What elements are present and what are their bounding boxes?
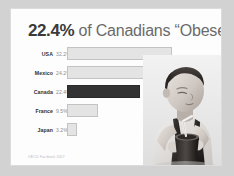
bar-japan — [67, 123, 77, 136]
slide-background: 22.4% of Canadians “Obese” USA32.2%Mexic… — [0, 0, 234, 176]
slide-card: 22.4% of Canadians “Obese” USA32.2%Mexic… — [10, 8, 222, 166]
bar-label-mexico: Mexico — [17, 70, 53, 76]
page-title: 22.4% of Canadians “Obese” — [28, 21, 213, 43]
boy-drinking-photo — [143, 55, 221, 166]
bar-label-france: France — [17, 108, 53, 114]
bar-canada — [67, 85, 140, 98]
bar-mexico — [67, 66, 146, 79]
title-percent: 22.4% — [28, 21, 74, 40]
bar-label-usa: USA — [17, 51, 53, 57]
bar-france — [67, 104, 98, 117]
bar-label-canada: Canada — [17, 89, 53, 95]
photo-graphic — [143, 55, 221, 166]
bar-label-japan: Japan — [17, 127, 53, 133]
title-rest: of Canadians “Obese” — [74, 22, 222, 39]
source-footnote: OECD Factbook 2007 — [28, 155, 65, 159]
